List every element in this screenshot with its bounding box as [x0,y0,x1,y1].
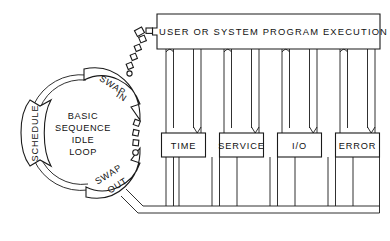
channel-io-arrowhead [310,127,318,133]
channel-io-notch-top [282,49,290,52]
dashed-chain-out-node-3 [133,140,139,146]
process-box-io[interactable]: I/O [278,133,322,157]
channel-error-arrowhead [368,127,376,133]
channel-group-error [340,49,375,133]
channel-group-service [224,49,259,133]
dashed-chain-out-node-1 [133,119,140,126]
arc-block-schedule[interactable]: SCHEDULE [21,100,51,166]
center-line-2: SEQUENCE [55,123,111,133]
header-block: USER OR SYSTEM PROGRAM EXECUTION [153,14,389,49]
dashed-chain-out-node-4 [133,150,139,156]
channel-service-notch-top [224,49,232,52]
process-box-time[interactable]: TIME [162,133,206,157]
channel-group-time [166,49,201,133]
channel-service-arrowhead [252,127,260,133]
return-rail [121,189,380,213]
dashed-chain-out-node-2 [132,129,139,136]
center-line-4: LOOP [69,147,97,157]
dashed-chain-in-node-2 [130,53,137,60]
dashed-chain-in-node-4 [139,35,147,43]
process-box-io-label: I/O [292,141,307,151]
center-line-1: BASIC [68,111,98,121]
channel-time-notch-top [166,49,174,52]
diagram-canvas: USER OR SYSTEM PROGRAM EXECUTION [0,0,390,241]
center-line-3: IDLE [72,135,95,145]
dashed-chain-in-node-1 [126,62,133,69]
return-rail-lower [121,196,380,213]
center-text-block: BASIC SEQUENCE IDLE LOOP [55,111,111,157]
dashed-chain-in-node-3 [134,44,141,51]
loop-arc-lower-left-outer [34,160,88,190]
header-label: USER OR SYSTEM PROGRAM EXECUTION [159,26,388,37]
lower-channels [166,157,380,213]
loop-arc-upper-left-outer [34,75,86,104]
return-rail-upper [126,189,380,206]
dashed-chain-swap-in [126,27,152,76]
process-box-time-label: TIME [171,141,197,151]
flowchart-svg: USER OR SYSTEM PROGRAM EXECUTION [0,0,390,241]
channel-error-notch-top [340,49,348,52]
channel-time-arrowhead [194,127,202,133]
channel-group-io [282,49,317,133]
process-box-error[interactable]: ERROR [336,133,380,157]
process-box-error-label: ERROR [339,141,377,151]
process-box-service-label: SERVICE [218,141,264,151]
arc-block-schedule-label: SCHEDULE [30,105,40,162]
dashed-chain-in-node-0 [127,71,132,76]
process-box-service[interactable]: SERVICE [218,133,264,157]
dashed-chain-in-node-6 [146,28,153,33]
